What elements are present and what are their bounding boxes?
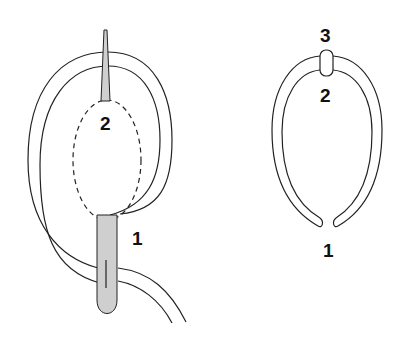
left-label-2: 2 [100, 113, 111, 134]
diagram-canvas: 2 1 3 2 1 [0, 0, 396, 337]
ring-end-right [334, 218, 338, 227]
right-label-1: 1 [323, 240, 334, 261]
left-label-1: 1 [132, 228, 143, 249]
needle-tip-icon [101, 30, 110, 101]
ring-outer [272, 56, 382, 226]
right-diagram [272, 50, 382, 227]
knot-body-icon [97, 215, 117, 314]
right-label-2: 2 [320, 85, 331, 106]
thread-trail-1 [118, 268, 186, 322]
ring-end-left [318, 218, 322, 227]
thread-trail-2 [118, 281, 172, 323]
right-label-3: 3 [320, 25, 331, 46]
figure: 2 1 3 2 1 [0, 0, 396, 337]
clip-icon [320, 50, 333, 76]
